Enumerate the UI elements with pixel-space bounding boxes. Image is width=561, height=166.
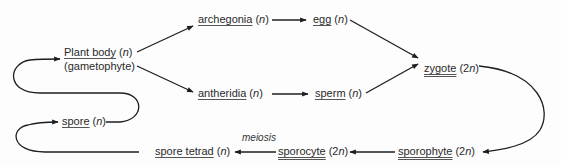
node-egg: egg(n) — [313, 13, 348, 26]
node-label: egg — [313, 13, 331, 25]
ploidy: (2n) — [455, 145, 475, 157]
node-label: antheridia — [198, 87, 246, 99]
ploidy: (n) — [334, 13, 347, 25]
connector-arrows — [0, 0, 561, 166]
node-sperm: sperm(n) — [315, 87, 362, 100]
node-label: sperm — [315, 87, 346, 99]
node-label: archegonia — [198, 13, 252, 25]
node-label: Plant body — [64, 46, 116, 58]
ploidy: (n) — [93, 115, 106, 127]
node-label: spore tetrad — [155, 145, 214, 157]
node-archegonia: archegonia(n) — [198, 13, 269, 26]
node-plant-body: Plant body(n) — [64, 46, 132, 59]
node-label: spore — [62, 115, 90, 127]
node-zygote: zygote(2n) — [424, 62, 479, 75]
node-antheridia: antheridia(n) — [198, 87, 263, 100]
ploidy: (n) — [217, 145, 230, 157]
node-sporophyte: sporophyte(2n) — [398, 145, 475, 158]
ploidy: (n) — [249, 87, 262, 99]
node-plant-body-subtitle: (gametophyte) — [64, 60, 135, 73]
life-cycle-diagram: Plant body(n) (gametophyte) archegonia(n… — [0, 0, 561, 166]
ploidy: (2n) — [459, 62, 479, 74]
node-spore: spore(n) — [62, 115, 106, 128]
ploidy: (n) — [349, 87, 362, 99]
node-label: sporocyte — [278, 145, 326, 157]
node-spore-tetrad: spore tetrad(n) — [155, 145, 230, 158]
node-label: sporophyte — [398, 145, 452, 157]
ploidy: (n) — [119, 46, 132, 58]
ploidy: (2n) — [329, 145, 349, 157]
edge-label-meiosis: meiosis — [242, 132, 276, 143]
node-label: zygote — [424, 62, 456, 74]
node-sporocyte: sporocyte(2n) — [278, 145, 348, 158]
ploidy: (n) — [255, 13, 268, 25]
